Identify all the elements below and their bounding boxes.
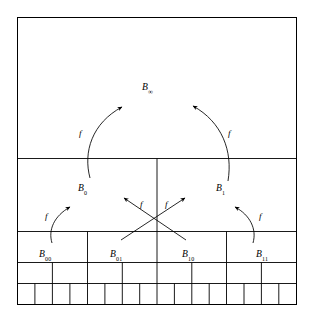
node-subscript-B-infinity: ∞: [148, 88, 153, 95]
node-base-B-10: B: [182, 248, 188, 259]
node-label-B-11: B11: [256, 249, 268, 262]
arrow-group-level2-cross: [121, 198, 186, 240]
node-subscript-B-00: 00: [45, 256, 51, 262]
grid-row-level-3: [52, 263, 261, 284]
node-subscript-B-0: 0: [84, 190, 87, 196]
map-label-f-center-left: f: [140, 200, 143, 209]
node-label-B-infinity: B∞: [142, 82, 153, 95]
arrow-group-level1-to-level0: [88, 106, 229, 181]
map-label-f-right-outer: f: [228, 129, 231, 138]
node-base-B-1: B: [216, 182, 222, 193]
arrow-B0-to-Binfinity: [88, 107, 122, 178]
diagram-svg: [0, 0, 311, 316]
node-label-B-00: B00: [39, 249, 51, 262]
map-label-f-left-inner: f: [45, 212, 48, 221]
node-label-B-1: B1: [216, 183, 225, 196]
arrow-B10-to-B0-cross: [124, 198, 186, 240]
grid-row-level-2: [88, 232, 227, 263]
node-subscript-B-11: 11: [262, 256, 268, 262]
node-base-B-infinity: B: [142, 81, 148, 92]
arrow-B1-to-Binfinity: [193, 106, 229, 181]
map-label-f-left-outer: f: [79, 129, 82, 138]
node-subscript-B-10: 10: [188, 256, 194, 262]
node-subscript-B-01: 01: [116, 256, 122, 262]
arrow-B11-to-B1: [235, 207, 254, 243]
arrow-group-level2-outer: [51, 207, 254, 243]
figure-canvas: B∞ B0 B1 B00 B01 B10 B11 f f f f f f: [0, 0, 311, 316]
arrow-B01-to-B1-cross: [121, 198, 185, 240]
node-label-B-01: B01: [110, 249, 122, 262]
arrow-B00-to-B0: [51, 207, 70, 243]
node-base-B-11: B: [256, 248, 262, 259]
node-base-B-01: B: [110, 248, 116, 259]
node-label-B-10: B10: [182, 249, 194, 262]
node-base-B-00: B: [39, 248, 45, 259]
map-label-f-center-right: f: [165, 200, 168, 209]
node-label-B-0: B0: [78, 183, 87, 196]
grid-row-level-4: [35, 284, 279, 305]
node-base-B-0: B: [78, 182, 84, 193]
map-label-f-right-inner: f: [259, 212, 262, 221]
node-subscript-B-1: 1: [222, 190, 225, 196]
